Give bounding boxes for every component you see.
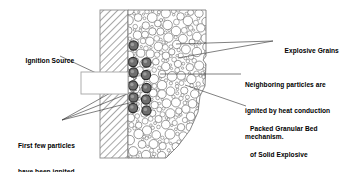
grain — [138, 11, 140, 13]
grain — [192, 150, 198, 156]
grain — [176, 108, 182, 114]
grain — [206, 94, 208, 96]
grain — [142, 13, 144, 15]
grain — [168, 29, 170, 31]
grain — [171, 8, 176, 13]
grain — [137, 49, 145, 57]
grain — [158, 102, 161, 105]
grain — [171, 26, 181, 36]
grain — [181, 94, 184, 97]
ignition-source-box — [81, 72, 128, 94]
grain — [148, 135, 151, 138]
grain — [182, 150, 185, 153]
grain — [133, 127, 136, 130]
grain — [171, 124, 173, 126]
grain — [169, 55, 172, 58]
grain — [166, 87, 175, 96]
explosive-grains-text: Explosive Grains — [285, 47, 339, 54]
grain — [165, 129, 175, 139]
grain — [152, 84, 157, 89]
grain — [151, 25, 154, 28]
grain — [195, 9, 203, 17]
grain — [151, 126, 154, 129]
grain — [161, 99, 163, 101]
first-particles-line1: First few particles — [18, 142, 76, 151]
grain — [164, 79, 167, 82]
grain — [138, 140, 146, 148]
grain — [149, 140, 158, 149]
grain — [159, 38, 162, 41]
grain — [188, 99, 197, 108]
grain — [170, 67, 172, 69]
grain — [167, 149, 170, 152]
grain — [140, 38, 146, 44]
grain — [162, 41, 165, 44]
grain — [187, 31, 192, 36]
grain — [175, 68, 180, 73]
ignition-source-text: Ignition Source — [26, 57, 75, 64]
grain — [199, 141, 202, 144]
grain — [143, 135, 146, 138]
grain — [206, 119, 209, 122]
grain — [135, 114, 140, 119]
grain — [189, 131, 197, 139]
grain — [172, 95, 175, 98]
grain — [205, 129, 208, 132]
grain — [156, 96, 160, 100]
grain — [185, 12, 188, 15]
grain — [185, 95, 189, 99]
grain — [177, 124, 184, 131]
grain — [204, 138, 208, 142]
grain — [181, 87, 188, 94]
grain — [136, 120, 138, 122]
grain — [140, 45, 142, 47]
grain — [174, 150, 181, 157]
grain — [176, 54, 178, 56]
grain — [181, 67, 183, 69]
grain — [157, 107, 162, 112]
grain — [186, 26, 188, 28]
grain — [136, 155, 139, 158]
grain — [151, 98, 153, 100]
grain — [178, 115, 180, 117]
grain — [195, 128, 199, 132]
grain — [169, 82, 172, 85]
grain — [159, 77, 161, 79]
grain — [190, 141, 199, 150]
grain — [164, 31, 167, 34]
grain — [142, 118, 148, 124]
ignited-grain-highlight — [131, 43, 135, 47]
ignited-grain-highlight — [143, 97, 147, 101]
grain — [139, 90, 141, 92]
grain — [158, 140, 161, 143]
grain — [164, 33, 173, 42]
grain — [154, 122, 157, 125]
grain — [175, 85, 179, 89]
grain — [160, 112, 165, 117]
grain — [206, 132, 209, 135]
grain — [179, 81, 184, 86]
grain — [183, 141, 186, 144]
grain — [169, 142, 172, 145]
grain — [133, 12, 136, 15]
grain — [164, 138, 169, 143]
grain — [172, 57, 177, 62]
grain — [196, 82, 200, 86]
grain — [184, 151, 192, 159]
grain — [159, 51, 163, 55]
grain — [152, 68, 157, 73]
grain — [204, 102, 208, 106]
grain — [201, 34, 210, 43]
grain — [202, 75, 205, 78]
grain — [133, 29, 136, 32]
granular-bed-group — [124, 6, 212, 160]
grain — [180, 143, 184, 147]
grain — [157, 149, 160, 152]
ignited-grain-highlight — [144, 85, 148, 89]
grain — [157, 125, 161, 129]
grain — [154, 42, 163, 51]
grain — [138, 151, 141, 154]
grain — [142, 138, 144, 140]
grain — [194, 45, 197, 48]
grain — [177, 48, 181, 52]
